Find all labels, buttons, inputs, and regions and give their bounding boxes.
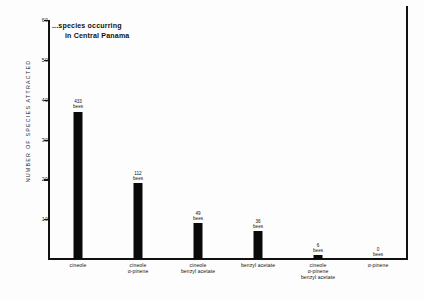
bar[interactable] [254,231,263,259]
bar-value-label: 0bees [373,247,383,257]
plot-area: 433bees112bees49bees36bees6bees0bees [48,20,408,259]
y-tick-label: 40 [32,97,48,103]
x-axis-labels: cineolecineoleα-pinenecineolebenzyl acet… [48,262,408,300]
bar-value-unit: bees [133,176,143,181]
x-axis-label-line: benzyl acetate [281,274,355,280]
y-tick-label: 20 [32,176,48,182]
x-axis-label: α-pinene [341,262,415,268]
bar[interactable] [194,223,203,259]
bar[interactable] [374,258,383,259]
x-axis-label-line: benzyl acetate [161,268,235,274]
bar-value-unit: bees [73,104,83,109]
bar[interactable] [134,183,143,259]
bar-value-unit: bees [253,224,263,229]
y-tick-label: 50 [32,57,48,63]
bar-value-label: 6bees [313,243,323,253]
bar-group: 433bees [48,20,108,259]
bar-value-label: 36bees [253,219,263,229]
bar-group: 36bees [228,20,288,259]
bar-value-label: 433bees [73,99,83,109]
x-axis-label-line: α-pinene [341,262,415,268]
bar[interactable] [314,255,323,259]
bar-value-unit: bees [193,216,203,221]
y-tick-label: 10 [32,216,48,222]
y-tick-label: 60 [32,17,48,23]
bar-group: 0bees [348,20,408,259]
bar-group: 112bees [108,20,168,259]
y-tick-label: 30 [32,137,48,143]
bar-value-unit: bees [313,248,323,253]
bar-chart: 102030405060 NUMBER OF SPECIES ATTRACTED… [0,0,424,300]
y-axis-title: NUMBER OF SPECIES ATTRACTED [25,31,31,211]
bar[interactable] [74,112,83,259]
bar-group: 49bees [168,20,228,259]
bar-value-label: 112bees [133,171,143,181]
bar-value-label: 49bees [193,211,203,221]
bar-value-unit: bees [373,252,383,257]
bar-group: 6bees [288,20,348,259]
